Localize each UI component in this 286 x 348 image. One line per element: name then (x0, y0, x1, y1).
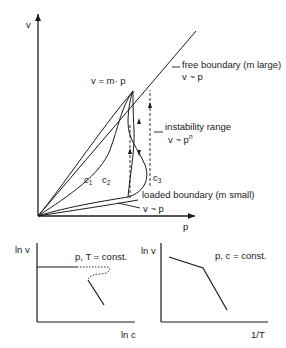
main-x-axis-label: p (183, 221, 188, 232)
bl-decline-line (88, 280, 104, 305)
curve-c2-label: c2 (102, 174, 111, 186)
bl-x-axis-label: ln c (121, 329, 136, 340)
curve-c1 (38, 91, 133, 216)
curve-c3-label: c3 (153, 172, 162, 184)
loaded-boundary-relation: v ~ p (143, 203, 164, 214)
bl-condition-label: p, T = const. (75, 251, 127, 262)
main-y-axis-label: v (26, 19, 31, 30)
loaded-boundary-label: loaded boundary (m small) (142, 189, 254, 200)
bottom-left-plot: ln v ln c p, T = const. (15, 243, 136, 340)
br-x-axis-label: 1/T (251, 329, 265, 340)
br-arrhenius-line (169, 257, 227, 310)
main-plot: v p v = m· p c1 c2 c3 free boundary (m l… (26, 14, 281, 232)
loaded-boundary-leader (118, 203, 140, 208)
br-y-axis-label: ln v (141, 245, 156, 256)
velocity-pressure-diagram: v p v = m· p c1 c2 c3 free boundary (m l… (0, 0, 286, 348)
bl-y-axis-label: ln v (15, 244, 30, 255)
bottom-right-plot: ln v 1/T p, c = const. (141, 243, 268, 340)
loaded-boundary-curve (38, 200, 138, 216)
free-boundary-relation: v ~ p (182, 71, 203, 82)
line-equation-label: v = m· p (91, 75, 126, 86)
jump-down-arrow (148, 102, 152, 108)
jump-up-arrow (128, 148, 132, 154)
instability-label: instability range (165, 121, 231, 132)
jump-up-arrow-2 (137, 118, 141, 124)
free-boundary-label: free boundary (m large) (182, 59, 281, 70)
br-condition-label: p, c = const. (215, 250, 267, 261)
instability-relation: v ~ pn (168, 133, 193, 145)
bl-transition-dotted (77, 267, 110, 279)
